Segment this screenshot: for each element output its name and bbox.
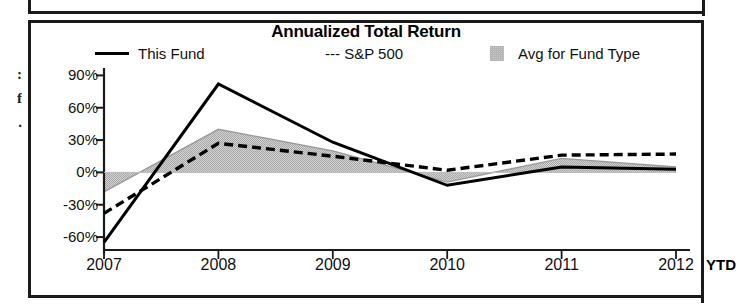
y-axis-tick-label: 30% <box>34 131 98 148</box>
x-axis-tick-label: 2010 <box>429 256 465 274</box>
x-axis-tick-label: 2009 <box>315 256 351 274</box>
x-axis-tick-label: 2008 <box>201 256 237 274</box>
y-axis-tick-label: 90% <box>34 66 98 83</box>
x-axis-tick-label: 2011 <box>544 256 578 274</box>
y-axis-tick-label: 0% <box>34 163 98 180</box>
x-axis-tick-label: 2007 <box>86 256 122 274</box>
y-axis-tick-label: -60% <box>34 228 98 245</box>
x-axis-ytd-label: YTD <box>706 256 736 273</box>
y-axis-tick-label: 60% <box>34 99 98 116</box>
x-axis-tick-labels: YTD 200720082009201020112012 <box>0 256 704 282</box>
y-axis-tick-label: -30% <box>34 196 98 213</box>
x-axis-tick-label: 2012 <box>658 256 694 274</box>
